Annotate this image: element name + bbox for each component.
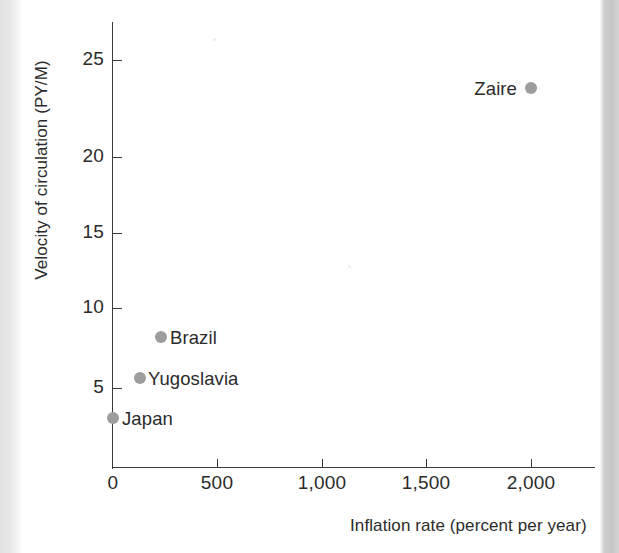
x-tick-label-2000: 2,000 [491, 472, 571, 494]
y-axis-line [112, 22, 113, 469]
y-tick-label-10: 10 [58, 296, 104, 318]
y-tick-5 [113, 388, 122, 389]
y-tick-20 [113, 157, 122, 158]
x-tick-label-500: 500 [177, 472, 257, 494]
x-tick-label-0: 0 [73, 472, 153, 494]
data-point-label-japan: Japan [122, 408, 173, 430]
y-tick-10 [113, 308, 122, 309]
y-tick-label-25: 25 [58, 48, 104, 70]
y-tick-label-20: 20 [58, 145, 104, 167]
x-tick-500 [217, 459, 218, 468]
data-point-zaire[interactable] [525, 82, 537, 94]
y-tick-15 [113, 233, 122, 234]
scan-speck [213, 38, 216, 41]
x-axis-line [112, 467, 595, 468]
data-point-label-yugoslavia: Yugoslavia [148, 368, 238, 390]
x-tick-1500 [426, 459, 427, 468]
y-tick-label-15: 15 [58, 221, 104, 243]
x-axis-title: Inflation rate (percent per year) [350, 516, 587, 536]
x-tick-1000 [322, 459, 323, 468]
y-tick-label-5: 5 [58, 376, 104, 398]
y-axis-title: Velocity of circulation (PY/M) [32, 40, 52, 300]
data-point-japan[interactable] [107, 412, 119, 424]
chart-page: 25 20 15 10 5 0 500 1,000 1,500 2,000 Ve… [0, 0, 619, 553]
x-tick-2000 [531, 459, 532, 468]
scatter-plot: 25 20 15 10 5 0 500 1,000 1,500 2,000 Ve… [0, 0, 619, 553]
data-point-label-zaire: Zaire [419, 78, 517, 100]
y-tick-25 [113, 60, 122, 61]
data-point-label-brazil: Brazil [170, 327, 217, 349]
scan-speck [348, 265, 351, 268]
x-tick-label-1000: 1,000 [282, 472, 362, 494]
data-point-yugoslavia[interactable] [134, 372, 146, 384]
x-tick-label-1500: 1,500 [386, 472, 466, 494]
data-point-brazil[interactable] [155, 331, 167, 343]
